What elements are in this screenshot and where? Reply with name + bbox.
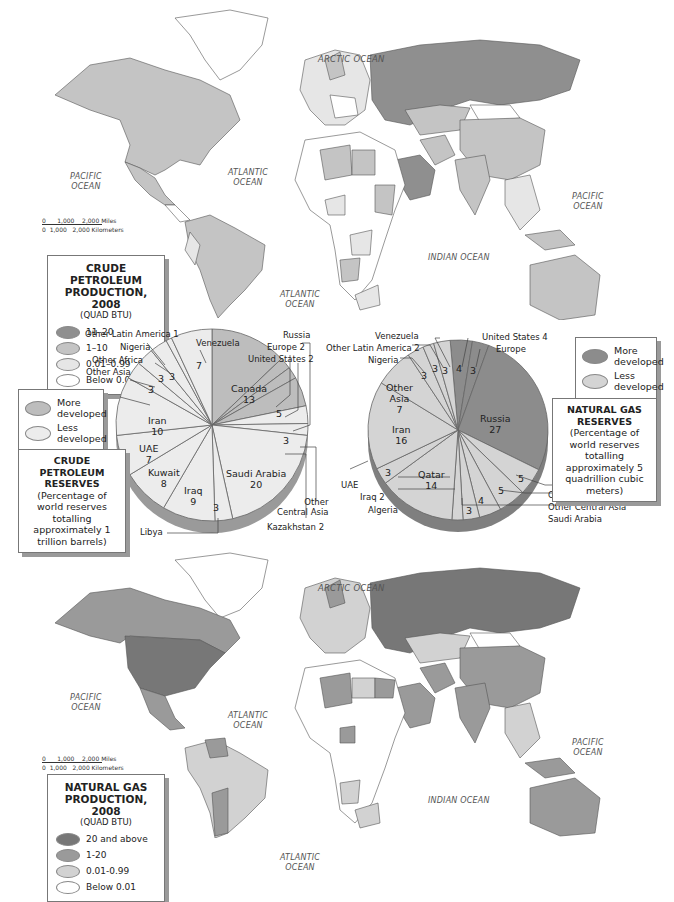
- legend-swatch: [56, 849, 80, 862]
- gas-production-map: ARCTIC OCEAN PACIFIC OCEAN ATLANTIC OCEA…: [0, 548, 674, 838]
- crude-value-iraq: Iraq9: [184, 485, 203, 507]
- gas-production-legend: NATURAL GAS PRODUCTION, 2008 (QUAD BTU) …: [47, 774, 165, 902]
- crude-label-other-africa: Other Africa: [92, 355, 143, 365]
- gas-label-iraq: Iraq 2: [360, 492, 385, 502]
- ocean-label-pacific-east: PACIFIC OCEAN: [572, 192, 604, 212]
- crude-value-other-central-asia: 3: [283, 435, 289, 446]
- legend-title: CRUDE PETROLEUM PRODUCTION, 2008: [56, 262, 156, 310]
- gas-label-nigeria: Nigeria: [368, 355, 398, 365]
- note-title: CRUDE PETROLEUM RESERVES: [23, 455, 121, 490]
- crude-label-venezuela: Venezuela: [196, 338, 240, 348]
- ocean-label-atlantic-south: ATLANTIC OCEAN: [280, 290, 320, 310]
- legend-swatch: [25, 401, 51, 416]
- ocean-label-atlantic-north: ATLANTIC OCEAN: [228, 711, 268, 731]
- crude-label-other-asia: Other Asia: [86, 367, 131, 377]
- legend-item-less-developed: Less developed: [582, 370, 650, 392]
- note-body: (Percentage of world reserves totalling …: [23, 490, 121, 548]
- gas-value-united-states: 4: [456, 363, 462, 374]
- gas-value-other-central-asia: 5: [498, 485, 504, 496]
- legend-swatch: [56, 865, 80, 878]
- gas-label-uae: UAE: [341, 480, 358, 490]
- gas-label-saudi-arabia: Saudi Arabia: [548, 514, 602, 524]
- crude-value-other-asia: 3: [148, 384, 154, 395]
- gas-label-other-latin-america: Other Latin America 2: [326, 343, 420, 353]
- gas-value-saudi-arabia: 4: [478, 495, 484, 506]
- crude-value-uae: UAE7: [139, 443, 158, 465]
- gas-label-other-central-asia: Other Central Asia: [548, 502, 626, 512]
- crude-value-iran: Iran10: [148, 415, 167, 437]
- gas-value-iran: Iran16: [392, 424, 411, 446]
- crude-value-libya: 3: [213, 502, 219, 513]
- gas-value-europe: 3: [470, 365, 476, 376]
- ocean-label-pacific-east: PACIFIC OCEAN: [572, 738, 604, 758]
- scale-miles-label: 0 1,000 2,000 Miles: [42, 217, 102, 224]
- crude-value-russia: 5: [276, 408, 282, 419]
- legend-title: NATURAL GAS PRODUCTION, 2008: [56, 781, 156, 817]
- crude-label-kazakhstan: Kazakhstan 2: [267, 522, 324, 532]
- ocean-label-indian: INDIAN OCEAN: [428, 796, 490, 806]
- ocean-label-pacific-west: PACIFIC OCEAN: [70, 693, 102, 713]
- gas-label-europe: Europe: [496, 344, 526, 354]
- crude-label-russia: Russia: [283, 330, 310, 340]
- gas-reserves-note: NATURAL GAS RESERVES (Percentage of worl…: [552, 398, 657, 502]
- ocean-label-indian: INDIAN OCEAN: [428, 253, 490, 263]
- gas-value-other-asia: OtherAsia7: [386, 382, 413, 415]
- ocean-label-atlantic-south: ATLANTIC OCEAN: [280, 853, 320, 873]
- crude-label-libya: Libya: [140, 527, 163, 537]
- crude-value-kuwait: Kuwait8: [148, 467, 180, 489]
- map-scale-bar: 0 1,000 2,000 Miles 0 1,000 2,000 Kilome…: [42, 755, 102, 771]
- scale-miles-label: 0 1,000 2,000 Miles: [42, 755, 102, 762]
- gas-label-united-states: United States 4: [482, 332, 548, 342]
- crude-value-other-africa: 3: [158, 373, 164, 384]
- legend-item-less-developed: Less developed: [25, 422, 97, 444]
- ocean-label-arctic: ARCTIC OCEAN: [318, 583, 385, 593]
- gas-value-algeria: 3: [466, 505, 472, 516]
- legend-item: 0.01-0.99: [56, 863, 156, 879]
- crude-reserves-dev-legend: More developed Less developed: [18, 389, 104, 452]
- gas-value-nigeria: 3: [421, 370, 427, 381]
- map-scale-bar: 0 1,000 2,000 Miles 0 1,000 2,000 Kilome…: [42, 217, 102, 233]
- crude-label-europe: Europe 2: [267, 342, 305, 352]
- legend-item-more-developed: More developed: [582, 345, 650, 367]
- legend-item-more-developed: More developed: [25, 397, 97, 419]
- scale-bar-line: [42, 224, 102, 229]
- legend-subtitle: (QUAD BTU): [56, 817, 156, 827]
- gas-value-venezuela: 3: [442, 365, 448, 376]
- crude-label-other-latin-america: Other Latin America 1: [85, 329, 179, 339]
- legend-swatch: [582, 374, 608, 389]
- gas-reserves-dev-legend: More developed Less developed: [575, 337, 657, 400]
- ocean-label-pacific-west: PACIFIC OCEAN: [70, 172, 102, 192]
- note-body: (Percentage of world reserves totalling …: [557, 427, 652, 496]
- gas-value-other-latin-america: 3: [432, 363, 438, 374]
- ocean-label-atlantic-north: ATLANTIC OCEAN: [228, 168, 268, 188]
- crude-label-nigeria: Nigeria: [120, 342, 150, 352]
- legend-swatch: [56, 881, 80, 894]
- gas-label-algeria: Algeria: [368, 505, 398, 515]
- crude-label-united-states: United States 2: [248, 354, 314, 364]
- crude-reserves-note: CRUDE PETROLEUM RESERVES (Percentage of …: [18, 449, 126, 553]
- crude-value-saudi-arabia: Saudi Arabia20: [226, 468, 286, 490]
- ocean-label-arctic: ARCTIC OCEAN: [318, 54, 385, 64]
- crude-production-map: ARCTIC OCEAN PACIFIC OCEAN ATLANTIC OCEA…: [0, 0, 674, 320]
- gas-value-uae: 3: [385, 467, 391, 478]
- crude-value-nigeria: 3: [169, 371, 175, 382]
- gas-value-other-southwest-asia: 5: [518, 473, 524, 484]
- legend-subtitle: (QUAD BTU): [56, 310, 156, 320]
- crude-label-other-central-asia: OtherCentral Asia: [277, 497, 328, 517]
- gas-value-qatar: Qatar14: [418, 469, 445, 491]
- legend-swatch: [56, 833, 80, 846]
- note-title: NATURAL GAS RESERVES: [557, 404, 652, 427]
- gas-value-russia: Russia27: [480, 413, 511, 435]
- crude-value-venezuela: 7: [196, 360, 202, 371]
- legend-swatch: [25, 426, 51, 441]
- legend-item: Below 0.01: [56, 879, 156, 895]
- gas-label-venezuela: Venezuela: [375, 331, 419, 341]
- crude-value-canada: Canada13: [231, 383, 267, 405]
- scale-bar-line: [42, 762, 102, 767]
- legend-item: 1-20: [56, 847, 156, 863]
- legend-swatch: [582, 349, 608, 364]
- legend-item: 20 and above: [56, 831, 156, 847]
